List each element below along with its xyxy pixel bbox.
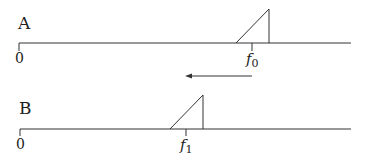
- f0-label: f0: [245, 50, 259, 70]
- spectrum-triangle-a: [236, 9, 269, 43]
- spectrum-shift-diagram: A 0 f0 B 0 f1: [0, 0, 365, 161]
- shift-arrow: [185, 74, 252, 79]
- panel-b-label: B: [19, 98, 32, 118]
- f1-label: f1: [179, 136, 193, 156]
- arrow-left-icon: [185, 74, 192, 79]
- panel-b: B 0 f1: [16, 95, 351, 156]
- panel-a: A 0 f0: [15, 9, 351, 70]
- origin-label-a: 0: [15, 50, 24, 66]
- origin-label-b: 0: [16, 136, 25, 152]
- spectrum-triangle-b: [170, 95, 203, 129]
- panel-a-label: A: [17, 13, 31, 33]
